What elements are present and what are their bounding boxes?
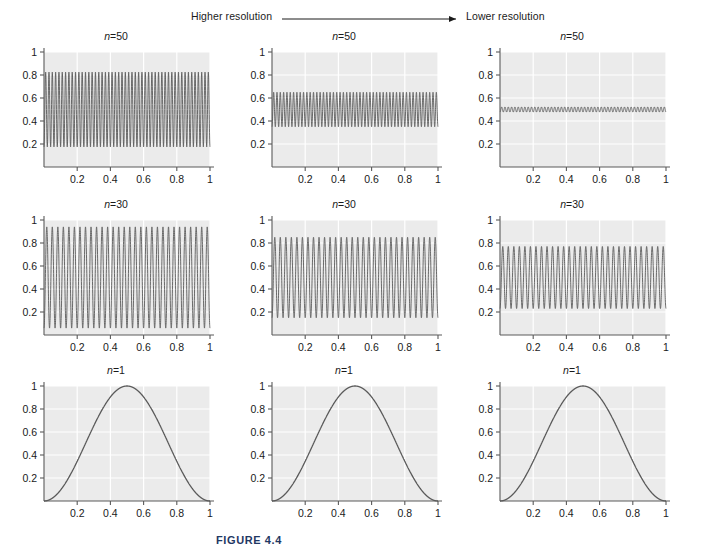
y-tick-label: 0.6 — [478, 260, 493, 272]
x-tick-label: 0.6 — [136, 507, 151, 519]
plot-background — [44, 52, 210, 167]
x-tick-label: 0.4 — [559, 173, 574, 185]
y-tick-label: 0.2 — [22, 306, 37, 318]
resolution-annotation: Higher resolution Lower resolution — [0, 8, 704, 30]
x-tick-label: 0.6 — [364, 173, 379, 185]
plot-panel-r1c3: n=500.20.40.60.810.20.40.60.81 — [456, 30, 688, 200]
y-tick-label: 0.4 — [250, 283, 265, 295]
y-tick-label: 0.2 — [250, 138, 265, 150]
x-tick-label: 1 — [663, 173, 669, 185]
y-tick-label: 1 — [31, 46, 37, 58]
x-tick-label: 0.4 — [103, 341, 118, 353]
plot-canvas: 0.20.40.60.810.20.40.60.81 — [456, 364, 688, 534]
plot-panel-r3c1: n=10.20.40.60.810.20.40.60.81 — [0, 364, 232, 534]
y-tick-label: 0.8 — [22, 69, 37, 81]
x-tick-label: 0.2 — [70, 341, 85, 353]
plot-grid: n=500.20.40.60.810.20.40.60.81n=500.20.4… — [0, 30, 704, 530]
y-tick-label: 0.8 — [478, 69, 493, 81]
x-tick-label: 0.8 — [397, 341, 412, 353]
y-tick-label: 1 — [487, 46, 493, 58]
x-tick-label: 1 — [207, 341, 213, 353]
y-tick-label: 1 — [487, 380, 493, 392]
plot-background — [272, 386, 438, 501]
x-tick-label: 0.2 — [526, 507, 541, 519]
x-tick-label: 1 — [663, 341, 669, 353]
x-tick-label: 0.2 — [298, 507, 313, 519]
y-tick-label: 0.6 — [22, 426, 37, 438]
x-tick-label: 0.6 — [364, 341, 379, 353]
plot-panel-r2c1: n=300.20.40.60.810.20.40.60.81 — [0, 198, 232, 368]
y-tick-label: 0.2 — [250, 306, 265, 318]
y-tick-label: 0.6 — [22, 260, 37, 272]
y-tick-label: 0.4 — [250, 115, 265, 127]
y-tick-label: 0.2 — [478, 306, 493, 318]
plot-background — [44, 220, 210, 335]
y-tick-label: 1 — [259, 380, 265, 392]
x-tick-label: 0.6 — [364, 507, 379, 519]
x-tick-label: 0.8 — [169, 507, 184, 519]
x-tick-label: 0.6 — [136, 173, 151, 185]
plot-canvas: 0.20.40.60.810.20.40.60.81 — [0, 198, 232, 368]
x-tick-label: 0.4 — [559, 507, 574, 519]
y-tick-label: 0.4 — [478, 115, 493, 127]
y-tick-label: 0.8 — [22, 403, 37, 415]
y-tick-label: 0.6 — [250, 260, 265, 272]
y-tick-label: 0.2 — [250, 472, 265, 484]
plot-canvas: 0.20.40.60.810.20.40.60.81 — [456, 30, 688, 200]
plot-panel-r1c1: n=500.20.40.60.810.20.40.60.81 — [0, 30, 232, 200]
x-tick-label: 0.4 — [331, 341, 346, 353]
x-tick-label: 0.8 — [397, 507, 412, 519]
y-tick-label: 0.8 — [250, 237, 265, 249]
x-tick-label: 0.2 — [298, 173, 313, 185]
plot-panel-r2c3: n=300.20.40.60.810.20.40.60.81 — [456, 198, 688, 368]
right-arrow-icon — [0, 8, 704, 30]
x-tick-label: 0.6 — [592, 341, 607, 353]
x-tick-label: 0.2 — [526, 173, 541, 185]
plot-background — [500, 386, 666, 501]
x-tick-label: 0.2 — [70, 507, 85, 519]
y-tick-label: 0.6 — [250, 92, 265, 104]
y-tick-label: 1 — [259, 214, 265, 226]
plot-background — [272, 52, 438, 167]
x-tick-label: 1 — [435, 507, 441, 519]
x-tick-label: 1 — [663, 507, 669, 519]
y-tick-label: 0.4 — [22, 283, 37, 295]
x-tick-label: 0.8 — [397, 173, 412, 185]
y-tick-label: 0.6 — [478, 92, 493, 104]
y-tick-label: 0.4 — [250, 449, 265, 461]
y-tick-label: 0.2 — [22, 472, 37, 484]
x-tick-label: 0.4 — [331, 507, 346, 519]
y-tick-label: 0.4 — [22, 449, 37, 461]
x-tick-label: 1 — [435, 341, 441, 353]
x-tick-label: 0.2 — [298, 341, 313, 353]
x-tick-label: 0.2 — [70, 173, 85, 185]
plot-canvas: 0.20.40.60.810.20.40.60.81 — [228, 30, 460, 200]
y-tick-label: 0.4 — [478, 283, 493, 295]
lower-resolution-label: Lower resolution — [466, 10, 545, 22]
y-tick-label: 1 — [487, 214, 493, 226]
y-tick-label: 0.8 — [22, 237, 37, 249]
plot-canvas: 0.20.40.60.810.20.40.60.81 — [0, 364, 232, 534]
plot-canvas: 0.20.40.60.810.20.40.60.81 — [228, 198, 460, 368]
x-tick-label: 0.4 — [559, 341, 574, 353]
x-tick-label: 0.6 — [136, 341, 151, 353]
x-tick-label: 0.8 — [169, 173, 184, 185]
y-tick-label: 0.8 — [478, 403, 493, 415]
y-tick-label: 0.8 — [250, 69, 265, 81]
plot-background — [500, 52, 666, 167]
plot-panel-r2c2: n=300.20.40.60.810.20.40.60.81 — [228, 198, 460, 368]
y-tick-label: 0.2 — [478, 138, 493, 150]
y-tick-label: 0.2 — [478, 472, 493, 484]
y-tick-label: 1 — [31, 214, 37, 226]
x-tick-label: 0.4 — [103, 507, 118, 519]
plot-background — [500, 220, 666, 335]
y-tick-label: 0.6 — [250, 426, 265, 438]
x-tick-label: 0.4 — [331, 173, 346, 185]
plot-panel-r3c2: n=10.20.40.60.810.20.40.60.81 — [228, 364, 460, 534]
y-tick-label: 0.8 — [250, 403, 265, 415]
y-tick-label: 0.4 — [478, 449, 493, 461]
x-tick-label: 0.6 — [592, 173, 607, 185]
figure-caption: FIGURE 4.4 — [216, 534, 282, 546]
x-tick-label: 1 — [435, 173, 441, 185]
plot-canvas: 0.20.40.60.810.20.40.60.81 — [456, 198, 688, 368]
